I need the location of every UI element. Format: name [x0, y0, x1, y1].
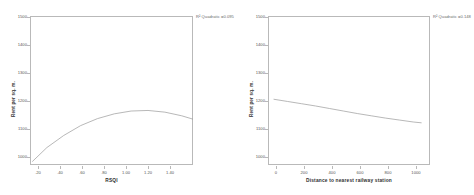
chart-panel-rsqi: Rent per sq. m. RSQI R² Quadratic =0.095… — [0, 0, 237, 195]
fit-curve-left — [0, 0, 237, 195]
chart-figure: Rent per sq. m. RSQI R² Quadratic =0.095… — [0, 0, 474, 195]
chart-panel-distance: Rent per sq. m. Distance to nearest rail… — [237, 0, 474, 195]
fit-curve-right — [237, 0, 474, 195]
